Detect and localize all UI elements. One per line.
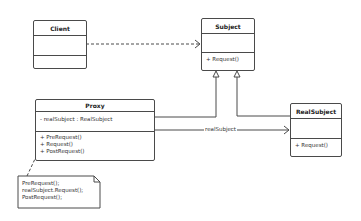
diagram-canvas: Client Subject + Request() Proxy - realS… <box>0 0 361 221</box>
class-proxy-name: Proxy <box>36 100 154 112</box>
operation: + PostRequest() <box>40 148 154 155</box>
generalization-realsubject-subject <box>234 71 290 116</box>
class-client[interactable]: Client <box>33 20 87 69</box>
operation: + Request() <box>206 56 254 63</box>
class-proxy-attributes: - realSubject : RealSubject <box>36 112 154 132</box>
class-subject[interactable]: Subject + Request() <box>201 18 255 71</box>
class-client-operations <box>34 56 86 59</box>
operation: + Request() <box>40 141 154 148</box>
class-subject-attributes <box>202 34 254 53</box>
note-line: realSubject.Request(); <box>22 187 100 194</box>
class-subject-name: Subject <box>202 19 254 34</box>
class-realsubject-attributes <box>291 119 341 139</box>
class-realsubject[interactable]: RealSubject + Request() <box>290 103 342 157</box>
operation: + PreRequest() <box>40 134 154 141</box>
generalization-proxy-subject <box>154 71 219 117</box>
class-realsubject-name: RealSubject <box>291 104 341 119</box>
class-client-attributes <box>34 36 86 56</box>
class-client-name: Client <box>34 21 86 36</box>
class-subject-operations: + Request() <box>202 53 254 63</box>
association-label: realSubject <box>204 126 237 133</box>
class-proxy[interactable]: Proxy - realSubject : RealSubject + PreR… <box>35 99 155 161</box>
note-line: PostRequest(); <box>22 194 100 201</box>
class-proxy-operations: + PreRequest() + Request() + PostRequest… <box>36 132 154 155</box>
dependency-client-subject <box>86 40 200 48</box>
attribute: - realSubject : RealSubject <box>40 116 154 122</box>
class-realsubject-operations: + Request() <box>291 139 341 149</box>
note-line: PreRequest(); <box>22 180 100 187</box>
note[interactable]: PreRequest(); realSubject.Request(); Pos… <box>18 176 100 208</box>
operation: + Request() <box>295 142 341 149</box>
